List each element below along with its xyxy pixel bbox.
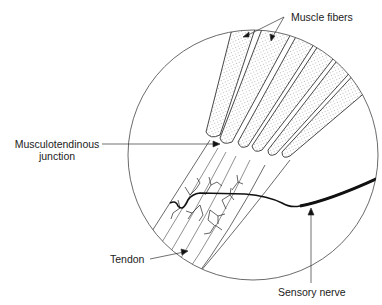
label-muscle-fibers: Muscle fibers bbox=[291, 11, 353, 23]
muscle-fibers-group bbox=[206, 29, 368, 157]
sensory-nerve bbox=[170, 178, 378, 208]
diagram-canvas: Muscle fibers Musculotendinous junction … bbox=[0, 0, 382, 305]
leader-lines bbox=[102, 17, 314, 283]
label-tendon: Tendon bbox=[110, 253, 144, 265]
label-sensory-nerve: Sensory nerve bbox=[278, 286, 346, 298]
label-musculotendinous-junction: Musculotendinous junction bbox=[12, 138, 102, 162]
label-musculotendinous-line1: Musculotendinous bbox=[12, 138, 102, 150]
label-musculotendinous-line2: junction bbox=[12, 150, 102, 162]
